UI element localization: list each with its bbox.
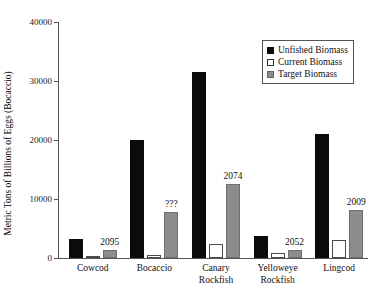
- y-axis-tick-mark: [54, 81, 58, 82]
- y-axis-tick-label: 40000: [30, 17, 53, 27]
- bar-value-annotation: 2095: [100, 237, 119, 247]
- legend-swatch-unfished-icon: [267, 47, 274, 54]
- legend-item-unfished-biomass: Unfished Biomass: [267, 44, 348, 56]
- bar-group: ???: [130, 22, 178, 258]
- bar-unfished: [315, 134, 329, 258]
- bar-target: [164, 212, 178, 258]
- chart-legend: Unfished Biomass Current Biomass Target …: [262, 40, 354, 84]
- bar-current: [209, 244, 223, 258]
- bar-target: [103, 250, 117, 258]
- bar-group: 2074: [192, 22, 240, 258]
- legend-swatch-current-icon: [267, 59, 274, 66]
- bar-unfished: [69, 239, 83, 258]
- bar-value-annotation: 2074: [224, 171, 243, 181]
- y-axis-tick-mark: [54, 22, 58, 23]
- x-axis-category-label: Canary Rockfish: [199, 263, 233, 286]
- bar-current: [271, 253, 285, 258]
- bar-current: [147, 255, 161, 258]
- y-axis-tick-label: 0: [48, 253, 53, 263]
- bar-current: [332, 240, 346, 258]
- y-axis-tick-mark: [54, 199, 58, 200]
- legend-swatch-target-icon: [267, 71, 274, 78]
- bar-target: [226, 184, 240, 258]
- x-axis-category-label: Lingcod: [323, 263, 355, 275]
- bar-value-annotation: ???: [165, 199, 178, 209]
- y-axis-tick-label: 10000: [30, 194, 53, 204]
- bar-unfished: [130, 140, 144, 258]
- bar-value-annotation: 2009: [347, 197, 366, 207]
- bar-unfished: [192, 72, 206, 258]
- y-axis-tick-label: 20000: [30, 135, 53, 145]
- legend-label-current: Current Biomass: [278, 57, 342, 67]
- bar-chart-figure: Metric Tons of Billions of Eggs (Bocacci…: [0, 0, 378, 307]
- y-axis-title: Metric Tons of Billions of Eggs (Bocacci…: [0, 0, 16, 307]
- x-axis-category-label: Cowcod: [77, 263, 109, 275]
- x-axis-category-label: Yelloweye Rockfish: [257, 263, 297, 286]
- legend-item-target-biomass: Target Biomass: [267, 68, 348, 80]
- legend-label-target: Target Biomass: [278, 69, 337, 79]
- y-axis-tick-mark: [54, 140, 58, 141]
- legend-item-current-biomass: Current Biomass: [267, 56, 348, 68]
- y-axis-tick-mark: [54, 258, 58, 259]
- y-axis-tick-label: 30000: [30, 76, 53, 86]
- bar-group: 2095: [69, 22, 117, 258]
- bar-target: [349, 210, 363, 258]
- bar-current: [86, 256, 100, 258]
- x-axis-category-label: Bocaccio: [137, 263, 172, 275]
- legend-label-unfished: Unfished Biomass: [278, 45, 348, 55]
- bar-unfished: [254, 236, 268, 258]
- bar-value-annotation: 2052: [285, 237, 304, 247]
- x-axis-line: [58, 258, 368, 259]
- bar-target: [288, 250, 302, 258]
